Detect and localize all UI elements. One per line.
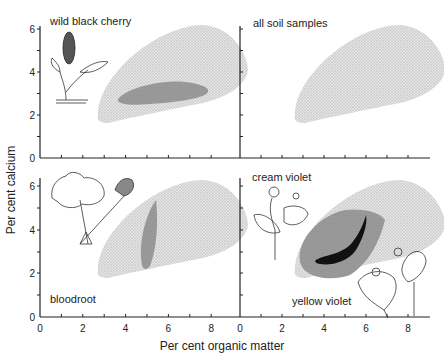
panel-title-cream-violet: cream violet bbox=[252, 171, 311, 183]
panel-bloodroot: 6 4 2 0 0 2 4 6 8 bloodroot bbox=[29, 172, 248, 334]
region-all-soil bbox=[97, 25, 248, 123]
xtick-label: 4 bbox=[123, 323, 129, 334]
ytick-label: 4 bbox=[29, 67, 35, 78]
xtick-label: 6 bbox=[363, 323, 369, 334]
x-axis-label: Per cent organic matter bbox=[160, 339, 285, 353]
wild-black-cherry-illustration bbox=[51, 32, 108, 103]
xtick-label: 0 bbox=[37, 323, 43, 334]
xtick-label: 4 bbox=[321, 323, 327, 334]
panel-violets: 0 2 4 6 8 cream violet yellow violet bbox=[222, 171, 444, 334]
region-yellow-violet bbox=[300, 209, 385, 278]
panel-all-soil-samples: all soil samples bbox=[222, 17, 444, 158]
chart-figure: 6 4 2 0 wild black cherry all soil sampl… bbox=[0, 0, 444, 362]
xtick-label: 2 bbox=[279, 323, 285, 334]
y-axis-label: Per cent calcium bbox=[4, 146, 18, 235]
ytick-label: 2 bbox=[29, 268, 35, 279]
panel-title-all-soil-samples: all soil samples bbox=[253, 17, 328, 29]
xtick-label: 6 bbox=[166, 323, 172, 334]
ytick-label: 0 bbox=[29, 312, 35, 323]
region-all-soil bbox=[97, 180, 248, 278]
ytick-label: 4 bbox=[29, 225, 35, 236]
ytick-label: 2 bbox=[29, 110, 35, 121]
panel-title-yellow-violet: yellow violet bbox=[292, 295, 351, 307]
panel-title-wild-black-cherry: wild black cherry bbox=[49, 15, 132, 27]
xtick-label: 2 bbox=[80, 323, 86, 334]
ytick-label: 6 bbox=[29, 24, 35, 35]
xtick-label: 8 bbox=[405, 323, 411, 334]
panel-title-bloodroot: bloodroot bbox=[50, 293, 96, 305]
ytick-label: 6 bbox=[29, 181, 35, 192]
ytick-label: 0 bbox=[29, 153, 35, 164]
xtick-label: 8 bbox=[208, 323, 214, 334]
xtick-label: 0 bbox=[237, 323, 243, 334]
region-all-soil bbox=[294, 25, 444, 123]
panel-wild-black-cherry: 6 4 2 0 wild black cherry bbox=[29, 15, 248, 164]
